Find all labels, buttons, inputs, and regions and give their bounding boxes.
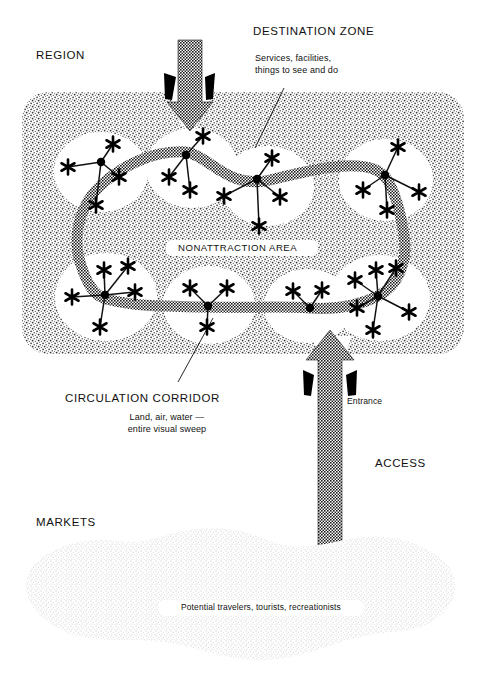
node-dot-icon	[182, 151, 190, 159]
tourism-region-diagram	[0, 0, 487, 697]
node-dot-icon	[97, 158, 105, 166]
node-dot-icon	[381, 171, 389, 179]
markets-label: MARKETS	[36, 515, 96, 530]
node-dot-icon	[253, 175, 261, 183]
region-label: REGION	[36, 48, 85, 63]
access-label: ACCESS	[375, 456, 426, 471]
markets-note: Potential travelers, tourists, recreatio…	[160, 602, 362, 613]
region-area	[0, 60, 487, 380]
circulation-corridor-label: CIRCULATION CORRIDOR	[65, 391, 220, 406]
node-dot-icon	[204, 302, 212, 310]
destination-zone-label: DESTINATION ZONE	[253, 24, 374, 39]
nonattraction-area-label: NONATTRACTION AREA	[178, 242, 297, 255]
entrance-label: Entrance	[347, 396, 382, 407]
circulation-corridor-note: Land, air, water — entire visual sweep	[92, 412, 242, 436]
node-dot-icon	[374, 292, 382, 300]
node-dot-icon	[101, 291, 109, 299]
destination-zone-note: Services, facilities, things to see and …	[255, 53, 338, 77]
node-dot-icon	[306, 304, 314, 312]
diagram-canvas: REGION DESTINATION ZONE Services, facili…	[0, 0, 487, 697]
